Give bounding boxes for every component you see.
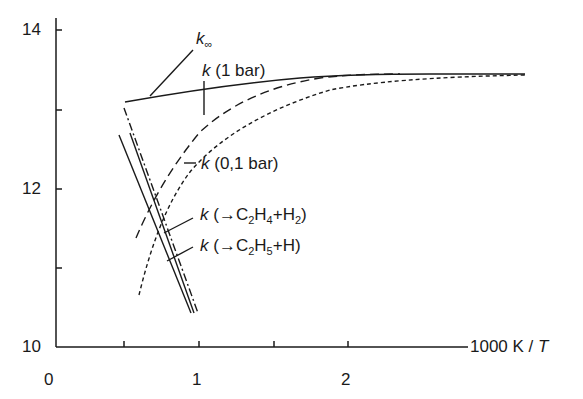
annotation-leaders [150, 50, 204, 261]
c2h4-open: (→C [213, 205, 248, 224]
x-axis-title-var: T [538, 337, 548, 356]
annotation-k-0.1bar: k (0,1 bar) [201, 155, 278, 172]
k-symbol: k [201, 154, 210, 173]
y-tick-label-12: 12 [22, 180, 41, 197]
k-symbol: k [202, 61, 211, 80]
annotation-k-c2h4-h2: k (→C2H4+H2) [200, 206, 307, 223]
c2h5-h: H [254, 236, 266, 255]
x-axis-title-prefix: 1000 K / [470, 337, 538, 356]
k-symbol: k [200, 236, 209, 255]
k-symbol: k [196, 29, 205, 48]
y-tick-label-14: 14 [22, 21, 41, 38]
c2h5-plus: +H) [273, 236, 301, 255]
y-tick-label-10: 10 [22, 338, 41, 355]
annotation-k-0.1bar-text: (0,1 bar) [214, 154, 278, 173]
x-tick-label-1: 1 [192, 371, 201, 388]
series-k-c2h5-h [124, 108, 198, 313]
annotation-k-c2h5-h: k (→C2H5+H) [200, 237, 301, 254]
annotation-k-1bar: k (1 bar) [202, 62, 265, 79]
c2h4-plus: +H [273, 205, 295, 224]
c2h4-close: ) [301, 205, 307, 224]
leader-k-c2h4 [164, 218, 193, 233]
x-axis-title: 1000 K / T [470, 338, 548, 355]
annotation-k-1bar-text: (1 bar) [215, 61, 265, 80]
c2h5-open: (→C [213, 236, 248, 255]
x-tick-label-0: 0 [44, 371, 53, 388]
c2h4-h: H [254, 205, 266, 224]
x-tick-label-2: 2 [341, 371, 350, 388]
series-k-inf [125, 74, 525, 102]
annotation-k-inf: k∞ [196, 30, 212, 47]
infinity-subscript: ∞ [205, 38, 213, 50]
series-k-0.1bar [139, 75, 525, 295]
k-symbol: k [200, 205, 209, 224]
leader-k-inf [150, 50, 193, 96]
series [119, 74, 525, 313]
